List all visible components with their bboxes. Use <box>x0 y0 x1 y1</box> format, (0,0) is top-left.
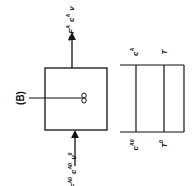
reactor-vessel <box>45 68 107 130</box>
stirrer-impeller-icon <box>82 93 86 98</box>
inlet-labels: T0 FA0 cA0 v0 <box>66 152 78 186</box>
stirrer-impeller-lower <box>82 98 86 103</box>
profile-bottom-T0: T0 <box>158 140 169 148</box>
panel-label: (B) <box>15 91 26 105</box>
outlet-labels: T FA cA v <box>64 6 76 42</box>
profile-top-T: T <box>160 48 169 54</box>
profile-top-cA: cA <box>129 48 140 56</box>
profile-bottom-cA0: cA0 <box>129 139 140 150</box>
cstr-diagram: (B) T FA cA v T0 FA0 cA0 v0 cA T cA0 <box>0 0 195 186</box>
